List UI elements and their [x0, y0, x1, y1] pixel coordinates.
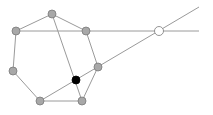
line-segment [13, 71, 40, 101]
point-C-vertex [82, 27, 90, 35]
point-G-vertex [78, 97, 86, 105]
line-segment [86, 31, 98, 67]
point-B-vertex [12, 27, 20, 35]
line-segment [82, 67, 98, 101]
line-segments [13, 7, 199, 101]
line-segment [16, 14, 52, 31]
point-Q-open [155, 27, 164, 36]
points [9, 10, 164, 105]
point-D-vertex [9, 67, 17, 75]
line-segment [40, 7, 199, 101]
line-segment [13, 31, 16, 71]
geometry-diagram [0, 0, 213, 115]
point-P-highlight [72, 76, 80, 84]
point-A-vertex [48, 10, 56, 18]
point-F-vertex [36, 97, 44, 105]
point-E-vertex [94, 63, 102, 71]
